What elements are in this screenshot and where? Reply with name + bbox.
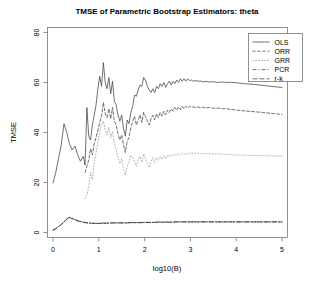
chart-container: TMSE of Parametric Bootstrap Estimators:… [0, 0, 315, 298]
series-line-orr [85, 103, 282, 173]
y-tick-label-4: 80 [33, 29, 40, 37]
legend-label-ols: OLS [275, 39, 289, 46]
chart-title: TMSE of Parametric Bootstrap Estimators:… [75, 7, 259, 16]
legend-label-pcr: PCR [275, 66, 290, 73]
y-tick-label-2: 40 [33, 129, 40, 137]
y-axis-label: TMSE [9, 122, 18, 143]
series-line-pcr [53, 217, 282, 230]
legend-label-orr: ORR [275, 48, 291, 55]
legend-label-r-k: r-k [275, 75, 284, 82]
y-tick-label-1: 20 [33, 179, 40, 187]
series-line-r-k [53, 218, 282, 231]
series-group [53, 63, 282, 231]
x-tick-label-5: 5 [280, 246, 284, 253]
x-tick-label-3: 3 [188, 246, 192, 253]
chart-canvas: TMSE of Parametric Bootstrap Estimators:… [0, 0, 315, 298]
x-tick-label-4: 4 [234, 246, 238, 253]
legend-label-grr: GRR [275, 57, 291, 64]
y-tick-label-0: 0 [33, 230, 40, 234]
x-tick-label-0: 0 [51, 246, 55, 253]
x-tick-label-2: 2 [143, 246, 147, 253]
series-line-grr [85, 121, 282, 199]
x-tick-label-1: 1 [97, 246, 101, 253]
y-tick-label-3: 60 [33, 79, 40, 87]
x-axis-label: log10(B) [153, 264, 182, 273]
